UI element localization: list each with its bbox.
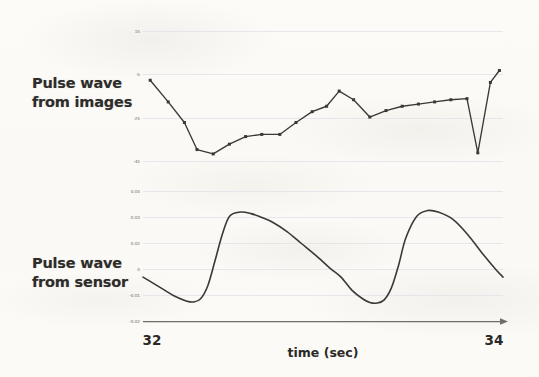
data-point-marker <box>417 103 420 106</box>
data-point-marker <box>401 105 404 108</box>
data-markers-pulse-wave-from-images <box>149 69 501 155</box>
y-tick-label-bottom-1: 0.04 <box>131 189 141 194</box>
data-point-marker <box>278 133 281 136</box>
y-tick-label-bottom-5: -0.01 <box>129 293 140 298</box>
data-point-marker <box>368 116 371 119</box>
data-point-marker <box>466 97 469 100</box>
data-point-marker <box>149 79 152 82</box>
x-axis-arrow-icon <box>500 318 508 325</box>
data-point-marker <box>167 100 170 103</box>
figure-screenshot: Pulse wave from images Pulse wave from s… <box>0 0 539 377</box>
data-point-marker <box>244 135 247 138</box>
data-point-marker <box>228 143 231 146</box>
data-point-marker <box>476 151 479 154</box>
data-point-marker <box>325 105 328 108</box>
x-tick-label-end: 34 <box>485 332 504 348</box>
gridlines-bottom-chart <box>143 192 503 296</box>
chart-pulse-wave-from-images: 15 -5 -25 -45 <box>133 29 503 164</box>
y-tick-label-top-2: -5 <box>136 72 141 77</box>
data-point-marker <box>385 109 388 112</box>
charts-canvas: 15 -5 -25 -45 0.04 0.03 0.02 0 -0.01 <box>0 0 539 377</box>
data-point-marker <box>212 152 215 155</box>
data-point-marker <box>489 81 492 84</box>
x-axis: 32 34 time (sec) <box>143 318 508 360</box>
data-point-marker <box>498 69 501 72</box>
y-tick-label-bottom-2: 0.03 <box>131 215 141 220</box>
data-line-pulse-wave-from-sensor <box>143 210 503 303</box>
data-point-marker <box>196 148 199 151</box>
data-point-marker <box>449 98 452 101</box>
y-tick-label-bottom-6: -0.02 <box>129 319 140 324</box>
x-tick-label-start: 32 <box>143 332 162 348</box>
y-tick-label-top-4: -45 <box>133 159 140 164</box>
y-tick-label-bottom-3: 0.02 <box>131 241 141 246</box>
data-line-pulse-wave-from-images <box>150 71 499 154</box>
chart-pulse-wave-from-sensor: 0.04 0.03 0.02 0 -0.01 -0.02 <box>129 189 503 324</box>
data-point-marker <box>183 121 186 124</box>
data-point-marker <box>433 100 436 103</box>
y-tick-label-top-1: 15 <box>135 29 141 34</box>
data-point-marker <box>295 121 298 124</box>
gridlines-top-chart <box>143 32 503 162</box>
y-tick-label-bottom-4: 0 <box>137 267 140 272</box>
data-point-marker <box>311 110 314 113</box>
x-axis-title: time (sec) <box>288 345 359 360</box>
data-point-marker <box>260 133 263 136</box>
data-point-marker <box>338 90 341 93</box>
y-tick-label-top-3: -25 <box>133 116 140 121</box>
data-point-marker <box>352 98 355 101</box>
